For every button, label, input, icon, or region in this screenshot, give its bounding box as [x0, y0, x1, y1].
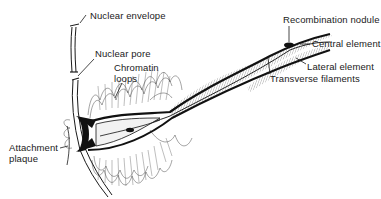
label-central-element: Central element: [312, 38, 381, 49]
diagram-drawing: [0, 0, 381, 199]
label-recombination-nodule: Recombination nodule: [283, 14, 380, 25]
label-lateral-element: Lateral element: [307, 61, 374, 72]
leader-nuclear-envelope: [80, 15, 86, 23]
label-nuclear-envelope: Nuclear envelope: [90, 10, 166, 21]
leader-nuclear-pore: [78, 59, 94, 76]
recombination-nodule-dot: [284, 43, 294, 48]
label-attachment-plaque-2: plaque: [9, 153, 38, 164]
label-transverse-filaments: Transverse filaments: [270, 73, 360, 84]
synaptonemal-complex-diagram: Nuclear envelope Nuclear pore Chromatin …: [0, 0, 381, 199]
label-nuclear-pore: Nuclear pore: [95, 48, 151, 59]
attachment-plaque-brace: [67, 126, 69, 165]
label-chromatin-loops-1: Chromatin: [114, 62, 159, 73]
label-attachment-plaque-1: Attachment: [9, 142, 58, 153]
label-chromatin-loops-2: loops: [114, 73, 137, 84]
